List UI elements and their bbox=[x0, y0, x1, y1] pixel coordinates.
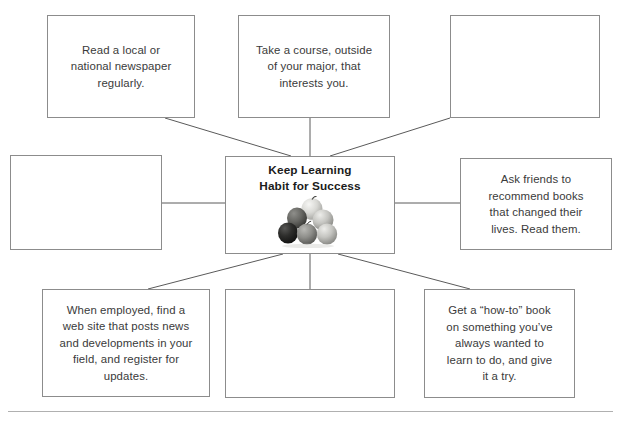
diagram-canvas: Read a local or national newspaper regul… bbox=[0, 0, 621, 424]
node-top-left-text: Read a local or national newspaper regul… bbox=[48, 42, 194, 92]
node-top-right-text bbox=[451, 66, 599, 67]
node-top-left[interactable]: Read a local or national newspaper regul… bbox=[47, 15, 195, 118]
connector-bot-right bbox=[338, 254, 470, 289]
node-top-right[interactable] bbox=[450, 15, 600, 118]
node-top-center-text: Take a course, outside of your major, th… bbox=[239, 42, 389, 92]
node-top-center[interactable]: Take a course, outside of your major, th… bbox=[238, 15, 390, 118]
node-middle-right-text: Ask friends to recommend books that chan… bbox=[461, 171, 611, 237]
node-middle-right[interactable]: Ask friends to recommend books that chan… bbox=[460, 158, 612, 250]
node-bottom-left-text: When employed, find a web site that post… bbox=[43, 302, 209, 385]
connector-top-right bbox=[330, 118, 450, 156]
node-center[interactable]: Keep Learning Habit for Success bbox=[225, 156, 395, 254]
node-bottom-left[interactable]: When employed, find a web site that post… bbox=[42, 289, 210, 397]
connector-bot-left bbox=[148, 254, 283, 289]
connector-top-left bbox=[165, 118, 291, 156]
footer-divider bbox=[8, 411, 613, 412]
node-bottom-right[interactable]: Get a “how-to” book on something you’ve … bbox=[424, 289, 575, 398]
node-bottom-center-text bbox=[226, 343, 394, 344]
node-middle-left-text bbox=[11, 202, 161, 203]
center-title: Keep Learning Habit for Success bbox=[259, 163, 360, 194]
node-bottom-center[interactable] bbox=[225, 289, 395, 398]
node-middle-left[interactable] bbox=[10, 155, 162, 250]
node-bottom-right-text: Get a “how-to” book on something you’ve … bbox=[425, 302, 574, 385]
apple-pyramid-image bbox=[274, 196, 346, 248]
